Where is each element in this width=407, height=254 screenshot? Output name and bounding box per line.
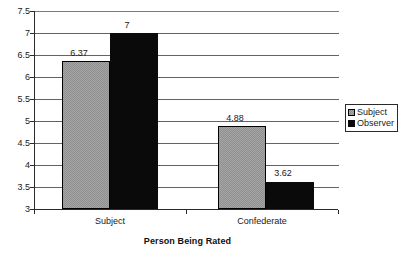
bar-subject-observer [110, 33, 158, 209]
data-label-subject-subject: 6.37 [55, 48, 103, 58]
y-tick-label: 6.5 [8, 51, 30, 60]
x-category-label-subject: Subject [34, 216, 186, 226]
y-tick-label: 5 [8, 117, 30, 126]
x-category-label-confederate: Confederate [186, 216, 338, 226]
data-label-confederate-subject: 4.88 [211, 113, 259, 123]
y-tick-label: 5.5 [8, 95, 30, 104]
bar-chart: 7.5 7 6.5 6 5.5 5 4.5 4 3.5 3 [0, 0, 407, 254]
x-tick-mark [338, 210, 339, 214]
bar-confederate-observer [266, 182, 314, 209]
y-tick-label: 3 [8, 205, 30, 214]
gridline [35, 11, 339, 12]
y-tick-label: 7.5 [8, 7, 30, 16]
y-tick-label: 7 [8, 29, 30, 38]
legend-label-observer: Observer [357, 119, 394, 128]
y-tick-label: 4 [8, 161, 30, 170]
bar-subject-subject [62, 61, 110, 209]
legend-item-subject: Subject [348, 107, 395, 118]
x-axis-title: Person Being Rated [0, 236, 375, 246]
x-tick-mark [34, 210, 35, 214]
x-tick-mark [186, 210, 187, 214]
y-tick-label: 3.5 [8, 183, 30, 192]
data-label-confederate-observer: 3.62 [259, 168, 307, 178]
legend: Subject Observer [345, 104, 398, 132]
legend-swatch-subject-icon [348, 109, 355, 116]
y-tick-label: 4.5 [8, 139, 30, 148]
data-label-subject-observer: 7 [103, 20, 151, 30]
legend-label-subject: Subject [357, 108, 387, 117]
gridline [35, 33, 339, 34]
plot-area [34, 11, 338, 210]
legend-swatch-observer-icon [348, 120, 355, 127]
y-tick-label: 6 [8, 73, 30, 82]
legend-item-observer: Observer [348, 118, 395, 129]
chart-title-cropped [0, 0, 407, 4]
